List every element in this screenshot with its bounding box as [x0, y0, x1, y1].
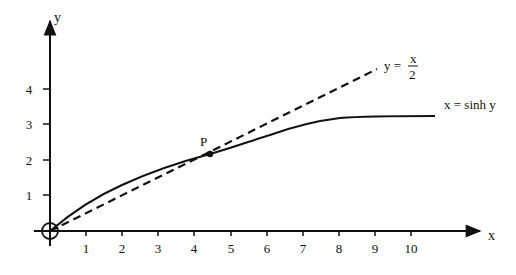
point-p — [207, 151, 213, 157]
curve-label: x = sinh y — [444, 97, 496, 112]
svg-text:4: 4 — [26, 82, 33, 97]
y-tick-labels: 1 2 3 4 — [26, 82, 33, 203]
svg-text:2: 2 — [26, 153, 33, 168]
svg-text:9: 9 — [372, 241, 379, 256]
y-axis-label: y — [54, 10, 61, 25]
svg-text:1: 1 — [83, 241, 90, 256]
svg-text:y =: y = — [384, 58, 401, 73]
svg-text:7: 7 — [300, 241, 307, 256]
svg-text:x: x — [410, 51, 417, 66]
y-ticks — [43, 89, 50, 195]
svg-text:2: 2 — [409, 67, 416, 82]
line-label: y = x 2 — [384, 51, 418, 82]
svg-text:5: 5 — [228, 241, 235, 256]
svg-text:8: 8 — [336, 241, 343, 256]
svg-text:3: 3 — [26, 117, 33, 132]
chart-canvas: x y 1 2 3 4 5 6 7 8 9 10 1 2 3 4 — [0, 0, 516, 275]
svg-text:3: 3 — [155, 241, 162, 256]
point-p-label: P — [200, 134, 207, 149]
line-y-eq-x-over-2 — [50, 69, 377, 231]
chart: x y 1 2 3 4 5 6 7 8 9 10 1 2 3 4 — [0, 0, 516, 275]
svg-text:2: 2 — [119, 241, 126, 256]
svg-text:6: 6 — [264, 241, 271, 256]
svg-text:10: 10 — [405, 241, 418, 256]
svg-text:1: 1 — [26, 188, 33, 203]
x-tick-labels: 1 2 3 4 5 6 7 8 9 10 — [83, 241, 418, 256]
curve-x-eq-sinh-y — [50, 116, 435, 231]
svg-text:4: 4 — [191, 241, 198, 256]
x-axis-label: x — [488, 228, 495, 243]
